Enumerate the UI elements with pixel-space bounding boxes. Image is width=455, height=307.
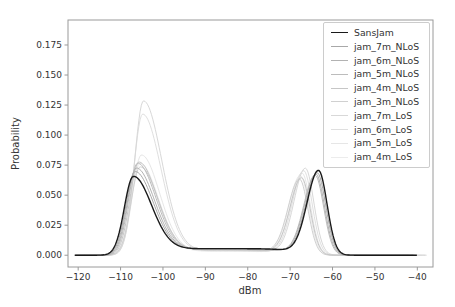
x-axis-label: dBm [239,285,262,296]
legend-line-swatch [331,129,348,130]
legend-item-jam_5m_LoS: jam_5m_LoS [331,136,423,150]
legend-item-jam_6m_NLoS: jam_6m_NLoS [331,54,423,68]
x-tick-label: −110 [108,272,133,282]
legend-label: jam_3m_NLoS [354,95,419,109]
x-tick-label: −90 [196,272,215,282]
y-tick-label: 0.050 [36,190,62,200]
curve-jam_6m_NLoS [75,168,413,255]
legend-line-swatch [331,101,348,102]
legend-line-swatch [331,74,348,75]
curve-jam_4m_LoS [82,164,427,256]
y-tick-label: 0.100 [36,130,62,140]
y-tick-label: 0.000 [36,250,62,260]
legend-line-swatch [331,88,348,89]
y-tick-label: 0.125 [36,100,62,110]
legend-item-jam_4m_LoS: jam_4m_LoS [331,150,423,164]
y-tick-label: 0.175 [36,40,62,50]
x-tick-label: −40 [408,272,427,282]
legend-label: jam_6m_LoS [354,123,412,137]
legend-label: jam_6m_NLoS [354,54,419,68]
x-tick-label: −70 [281,272,300,282]
y-tick-label: 0.075 [36,160,62,170]
x-tick-label: −50 [365,272,384,282]
legend-label: jam_4m_LoS [354,150,412,164]
y-tick-label: 0.150 [36,70,62,80]
x-tick-label: −120 [66,272,91,282]
legend-item-jam_6m_LoS: jam_6m_LoS [331,123,423,137]
x-tick-label: −80 [238,272,257,282]
x-tick-label: −60 [323,272,342,282]
legend-item-jam_4m_NLoS: jam_4m_NLoS [331,81,423,95]
legend-line-swatch [331,143,348,144]
legend-item-jam_5m_NLoS: jam_5m_NLoS [331,67,423,81]
y-axis-label: Probability [10,117,21,170]
legend-label: jam_7m_NLoS [354,40,419,54]
legend: SansJamjam_7m_NLoSjam_6m_NLoSjam_5m_NLoS… [323,22,430,168]
legend-label: jam_4m_NLoS [354,81,419,95]
legend-line-swatch [331,115,348,116]
x-tick-label: −100 [151,272,176,282]
legend-line-swatch [331,32,348,33]
legend-label: jam_5m_NLoS [354,67,419,81]
y-tick-label: 0.025 [36,220,62,230]
figure: −120−110−100−90−80−70−60−50−400.0000.025… [0,0,455,307]
legend-line-swatch [331,60,348,61]
legend-label: jam_7m_LoS [354,109,412,123]
legend-item-jam_7m_LoS: jam_7m_LoS [331,109,423,123]
legend-label: jam_5m_LoS [354,136,412,150]
legend-line-swatch [331,46,348,47]
legend-label: SansJam [354,26,394,40]
legend-item-jam_3m_NLoS: jam_3m_NLoS [331,95,423,109]
legend-item-jam_7m_NLoS: jam_7m_NLoS [331,40,423,54]
legend-item-SansJam: SansJam [331,26,423,40]
legend-line-swatch [331,157,348,158]
